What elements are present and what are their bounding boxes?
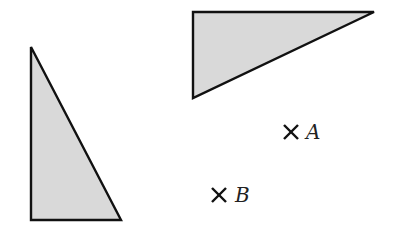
cross-icon <box>212 188 226 202</box>
diagram-canvas: A B <box>0 0 408 246</box>
point-a: A <box>284 120 320 144</box>
cross-icon <box>284 125 298 139</box>
top-triangle <box>193 12 374 98</box>
point-b-label: B <box>234 183 250 207</box>
point-b: B <box>212 183 250 207</box>
left-triangle <box>31 47 121 220</box>
point-a-label: A <box>304 120 320 144</box>
